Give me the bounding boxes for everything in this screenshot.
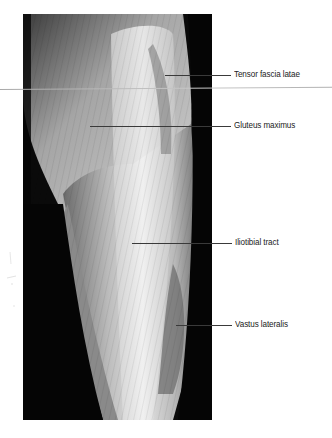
leader-line-tensor-fascia-latae [165,75,231,76]
leader-line-gluteus-maximus [90,126,231,127]
leader-line-vastus-lateralis [176,325,232,326]
label-gluteus-maximus: Gluteus maximus [234,120,295,130]
scan-specks [4,250,24,310]
leader-line-iliotibial-tract [132,243,232,244]
label-vastus-lateralis: Vastus lateralis [235,319,288,329]
label-iliotibial-tract: Iliotibial tract [235,237,279,247]
label-tensor-fascia-latae: Tensor fascia latae [234,69,300,79]
